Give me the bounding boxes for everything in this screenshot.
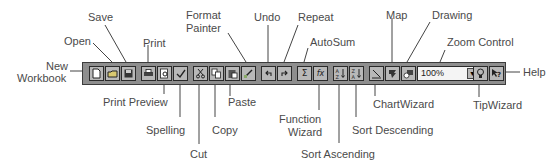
folder-icon xyxy=(107,68,118,79)
open-button[interactable] xyxy=(105,66,120,81)
undo-button[interactable] xyxy=(261,66,276,81)
cut-button[interactable] xyxy=(193,66,208,81)
format-painter-button[interactable] xyxy=(241,66,256,81)
label-new-workbook: New xyxy=(38,60,68,72)
label-print: Print xyxy=(143,37,166,49)
sort-descending-button[interactable]: ZA xyxy=(349,66,364,81)
print-button[interactable] xyxy=(141,66,156,81)
standard-toolbar: Σ fx AZ ZA 100% ▼ ? xyxy=(82,62,506,85)
new-document-icon xyxy=(91,68,102,79)
clipboard-icon xyxy=(227,68,238,79)
chartwizard-button[interactable] xyxy=(369,66,384,81)
autosum-button[interactable]: Σ xyxy=(297,66,312,81)
abc-check-icon xyxy=(175,68,186,79)
toolbar-diagram: New Workbook Open Save Print Print Previ… xyxy=(0,0,558,167)
label-function-wizard-line2: Wizard xyxy=(288,126,322,138)
pointer-question-icon: ? xyxy=(491,68,502,79)
label-function-wizard: Function xyxy=(279,113,321,125)
paste-button[interactable] xyxy=(225,66,240,81)
svg-text:A: A xyxy=(352,74,356,80)
scissors-icon xyxy=(195,68,206,79)
label-new-workbook-line2: Workbook xyxy=(17,72,66,84)
globe-map-icon xyxy=(387,68,398,79)
label-repeat: Repeat xyxy=(298,11,333,23)
label-help: Help xyxy=(523,66,546,78)
drawing-button[interactable] xyxy=(401,66,416,81)
print-preview-button[interactable] xyxy=(157,66,172,81)
svg-text:?: ? xyxy=(497,71,501,79)
zoom-control-select[interactable]: 100% ▼ xyxy=(417,66,480,81)
label-undo: Undo xyxy=(254,11,280,23)
label-format-painter-line2: Painter xyxy=(186,22,221,34)
label-paste: Paste xyxy=(228,96,256,108)
undo-arrow-icon xyxy=(263,68,274,79)
label-save: Save xyxy=(88,11,113,23)
spelling-button[interactable] xyxy=(173,66,188,81)
shapes-icon xyxy=(403,68,414,79)
printer-icon xyxy=(143,68,154,79)
new-workbook-button[interactable] xyxy=(89,66,104,81)
label-print-preview: Print Preview xyxy=(103,96,168,108)
zoom-control-value: 100% xyxy=(421,68,444,78)
repeat-button[interactable] xyxy=(277,66,292,81)
sigma-icon: Σ xyxy=(302,69,308,78)
label-copy: Copy xyxy=(212,124,238,136)
svg-text:Z: Z xyxy=(336,74,340,80)
label-autosum: AutoSum xyxy=(310,36,355,48)
label-drawing: Drawing xyxy=(432,9,472,21)
map-button[interactable] xyxy=(385,66,400,81)
sort-za-icon: ZA xyxy=(351,68,362,79)
lightbulb-icon xyxy=(475,68,486,79)
label-sort-ascending: Sort Ascending xyxy=(301,148,375,160)
floppy-disk-icon xyxy=(123,68,134,79)
label-chartwizard: ChartWizard xyxy=(373,98,434,110)
label-cut: Cut xyxy=(190,148,207,160)
magnifier-page-icon xyxy=(159,68,170,79)
help-button[interactable]: ? xyxy=(489,66,504,81)
save-button[interactable] xyxy=(121,66,136,81)
redo-arrow-icon xyxy=(279,68,290,79)
label-open: Open xyxy=(64,35,91,47)
sort-az-icon: AZ xyxy=(335,68,346,79)
paintbrush-icon xyxy=(243,68,254,79)
chart-wand-icon xyxy=(371,68,382,79)
tipwizard-button[interactable] xyxy=(473,66,488,81)
label-map: Map xyxy=(386,9,407,21)
label-format-painter: Format xyxy=(186,9,221,21)
label-zoom-control: Zoom Control xyxy=(447,36,514,48)
label-tipwizard: TipWizard xyxy=(473,99,522,111)
copy-pages-icon xyxy=(211,68,222,79)
fx-icon: fx xyxy=(317,69,325,78)
function-wizard-button[interactable]: fx xyxy=(313,66,328,81)
label-sort-descending: Sort Descending xyxy=(352,124,433,136)
copy-button[interactable] xyxy=(209,66,224,81)
sort-ascending-button[interactable]: AZ xyxy=(333,66,348,81)
label-spelling: Spelling xyxy=(146,124,185,136)
